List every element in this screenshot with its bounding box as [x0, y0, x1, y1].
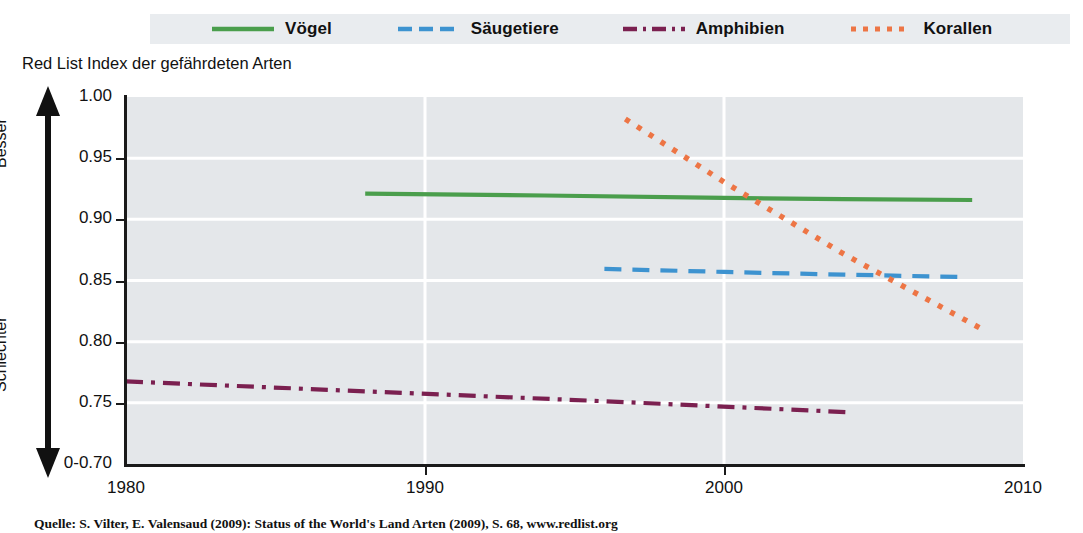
series-line-säugetiere [604, 269, 966, 277]
plot-area [126, 97, 1023, 464]
legend-swatch-dotted-icon [850, 21, 912, 37]
y-tick-label: 0.85 [2, 270, 112, 290]
y-tick-mark [116, 281, 125, 283]
x-tick-label: 1980 [107, 478, 145, 498]
x-tick-label: 1990 [406, 478, 444, 498]
legend-label-saeugetiere: Säugetiere [471, 19, 559, 39]
y-tick-mark [116, 219, 125, 221]
y-tick-label: 0.80 [2, 331, 112, 351]
x-axis-line [124, 464, 1025, 467]
legend-label-voegel: Vögel [285, 19, 332, 39]
legend-swatch-solid-icon [212, 21, 274, 37]
y-tick-label: 0.90 [2, 208, 112, 228]
legend-item-saeugetiere[interactable]: Säugetiere [398, 19, 559, 39]
series-line-korallen [625, 119, 987, 332]
x-tick-mark [724, 466, 726, 475]
legend-label-amphibien: Amphibien [696, 19, 785, 39]
y-tick-mark [116, 342, 125, 344]
x-tick-mark [425, 466, 427, 475]
legend-item-korallen[interactable]: Korallen [850, 19, 992, 39]
y-tick-label: 0.95 [2, 147, 112, 167]
chart-legend: Vögel Säugetiere Amphibien [150, 14, 1070, 44]
legend-label-korallen: Korallen [923, 19, 992, 39]
legend-swatch-dashdot-icon [623, 21, 685, 37]
legend-item-voegel[interactable]: Vögel [212, 19, 332, 39]
y-tick-label: 1.00 [2, 86, 112, 106]
chart-figure: Vögel Säugetiere Amphibien [0, 0, 1083, 533]
series-line-vögel [365, 194, 972, 200]
plot-lines [126, 97, 1023, 464]
y-tick-label: 0-0.70 [2, 453, 112, 473]
y-axis-tick-labels: 1.000.950.900.850.800.750-0.70 [0, 0, 112, 533]
y-tick-mark [116, 158, 125, 160]
legend-item-amphibien[interactable]: Amphibien [623, 19, 785, 39]
source-caption: Quelle: S. Vilter, E. Valensaud (2009): … [34, 516, 618, 532]
y-tick-mark [116, 403, 125, 405]
x-tick-label: 2010 [1004, 478, 1042, 498]
series-line-amphibien [126, 381, 853, 412]
legend-swatch-dashed-icon [398, 21, 460, 37]
x-tick-label: 2000 [705, 478, 743, 498]
y-tick-label: 0.75 [2, 392, 112, 412]
